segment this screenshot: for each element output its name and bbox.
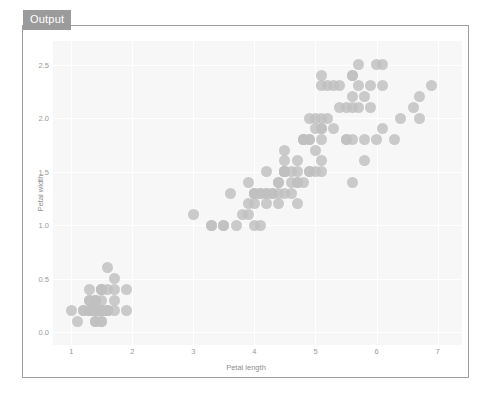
- scatter-point: [316, 70, 327, 81]
- scatter-point: [286, 177, 297, 188]
- scatter-point: [304, 113, 315, 124]
- y-tick-label: 2.0: [39, 114, 49, 123]
- scatter-point: [414, 91, 425, 102]
- scatter-point: [102, 262, 113, 273]
- x-axis-ticks: 1234567: [53, 347, 462, 359]
- gridline-vertical: [438, 41, 439, 345]
- gridline-vertical: [132, 41, 133, 345]
- scatter-point: [377, 59, 388, 70]
- scatter-point: [371, 134, 382, 145]
- scatter-point: [426, 80, 437, 91]
- scatter-point: [377, 123, 388, 134]
- scatter-point: [237, 209, 248, 220]
- output-tab[interactable]: Output: [23, 10, 71, 30]
- scatter-point: [279, 145, 290, 156]
- scatter-point: [188, 209, 199, 220]
- x-tick-label: 3: [191, 347, 195, 356]
- scatter-point: [286, 188, 297, 199]
- scatter-point: [347, 177, 358, 188]
- scatter-point: [218, 220, 229, 231]
- scatter-point: [347, 102, 358, 113]
- gridline-horizontal: [53, 65, 462, 66]
- gridline-vertical: [71, 41, 72, 345]
- scatter-point: [243, 177, 254, 188]
- y-tick-label: 0.5: [39, 274, 49, 283]
- scatter-point: [279, 155, 290, 166]
- y-tick-label: 1.0: [39, 221, 49, 230]
- scatter-point: [109, 295, 120, 306]
- scatter-point: [347, 70, 358, 81]
- scatter-point: [316, 134, 327, 145]
- scatter-point: [121, 305, 132, 316]
- gridline-horizontal: [53, 332, 462, 333]
- scatter-point: [84, 284, 95, 295]
- scatter-point: [90, 295, 101, 306]
- scatter-figure: 0.00.51.01.52.02.5 1234567 Petal width P…: [22, 25, 470, 379]
- scatter-point: [249, 198, 260, 209]
- scatter-point: [359, 155, 370, 166]
- scatter-point: [365, 80, 376, 91]
- scatter-point: [353, 80, 364, 91]
- scatter-point: [255, 188, 266, 199]
- scatter-point: [109, 273, 120, 284]
- scatter-point: [267, 188, 278, 199]
- scatter-point: [322, 113, 333, 124]
- scatter-point: [334, 80, 345, 91]
- x-axis-label: Petal length: [22, 363, 470, 372]
- scatter-point: [347, 91, 358, 102]
- scatter-point: [341, 134, 352, 145]
- scatter-point: [316, 166, 327, 177]
- scatter-point: [408, 102, 419, 113]
- scatter-point: [395, 113, 406, 124]
- scatter-point: [72, 316, 83, 327]
- scatter-point: [365, 102, 376, 113]
- scatter-point: [292, 166, 303, 177]
- scatter-point: [316, 155, 327, 166]
- scatter-point: [273, 198, 284, 209]
- scatter-point: [298, 134, 309, 145]
- scatter-point: [255, 220, 266, 231]
- scatter-point: [261, 198, 272, 209]
- y-axis-label: Petal width: [36, 175, 45, 212]
- gridline-vertical: [193, 41, 194, 345]
- scatter-point: [359, 134, 370, 145]
- scatter-point: [310, 145, 321, 156]
- scatter-point: [231, 220, 242, 231]
- scatter-point: [389, 134, 400, 145]
- x-tick-label: 1: [69, 347, 73, 356]
- x-tick-label: 7: [435, 347, 439, 356]
- x-tick-label: 2: [130, 347, 134, 356]
- plot-area: [53, 41, 462, 345]
- scatter-point: [261, 166, 272, 177]
- scatter-point: [292, 198, 303, 209]
- scatter-point: [353, 59, 364, 70]
- scatter-point: [273, 177, 284, 188]
- x-tick-label: 6: [374, 347, 378, 356]
- y-tick-label: 2.5: [39, 60, 49, 69]
- gridline-horizontal: [53, 172, 462, 173]
- scatter-point: [66, 305, 77, 316]
- scatter-point: [206, 220, 217, 231]
- scatter-point: [377, 80, 388, 91]
- scatter-point: [298, 177, 309, 188]
- y-tick-label: 0.0: [39, 328, 49, 337]
- scatter-point: [121, 284, 132, 295]
- scatter-point: [414, 113, 425, 124]
- scatter-point: [328, 123, 339, 134]
- scatter-point: [292, 155, 303, 166]
- scatter-point: [225, 188, 236, 199]
- scatter-point: [359, 91, 370, 102]
- output-panel-root: Output 0.00.51.01.52.02.5 1234567 Petal …: [0, 0, 486, 396]
- x-tick-label: 4: [252, 347, 256, 356]
- x-tick-label: 5: [313, 347, 317, 356]
